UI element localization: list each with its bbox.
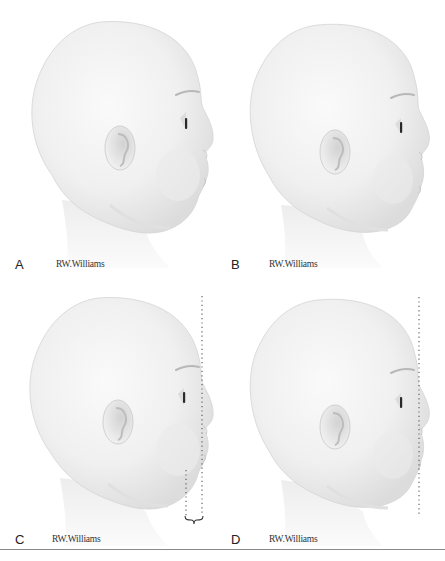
artist-signature: RW.Williams — [56, 260, 105, 270]
ear — [103, 400, 133, 444]
panel-letter: B — [231, 258, 240, 271]
artist-signature: RW.Williams — [52, 535, 101, 545]
ear — [105, 126, 135, 170]
baby-head-profile-illustration — [223, 0, 445, 275]
panel-letter: A — [15, 258, 24, 271]
eye-icon — [183, 392, 185, 403]
artist-signature: RW.Williams — [269, 535, 318, 545]
baby-head-profile-illustration — [223, 280, 445, 555]
eye-icon — [400, 397, 402, 408]
artist-signature: RW.Williams — [269, 260, 318, 270]
baby-head-profile-illustration — [0, 0, 222, 275]
panel-letter: D — [231, 533, 240, 546]
baby-head-profile-illustration — [0, 280, 222, 555]
eye-icon — [185, 118, 187, 129]
ear — [320, 130, 350, 174]
figure-bottom-rule — [0, 549, 445, 550]
ear — [320, 405, 350, 449]
panel-letter: C — [15, 533, 24, 546]
panel-a: A RW.Williams — [0, 0, 222, 275]
panel-d: D RW.Williams — [223, 280, 445, 555]
eye-icon — [400, 122, 402, 133]
panel-b: B RW.Williams — [223, 0, 445, 275]
panel-c: C RW.Williams — [0, 280, 222, 555]
